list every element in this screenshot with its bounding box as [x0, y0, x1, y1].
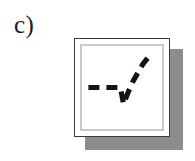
- threshold-curve-path: [88, 56, 149, 104]
- plot-inner-frame: [80, 44, 164, 131]
- plot-area: [82, 46, 162, 129]
- plot-svg: [82, 46, 162, 129]
- figure-frame: [74, 38, 170, 137]
- figure-panel-root: c): [0, 0, 195, 161]
- panel-label: c): [14, 11, 34, 39]
